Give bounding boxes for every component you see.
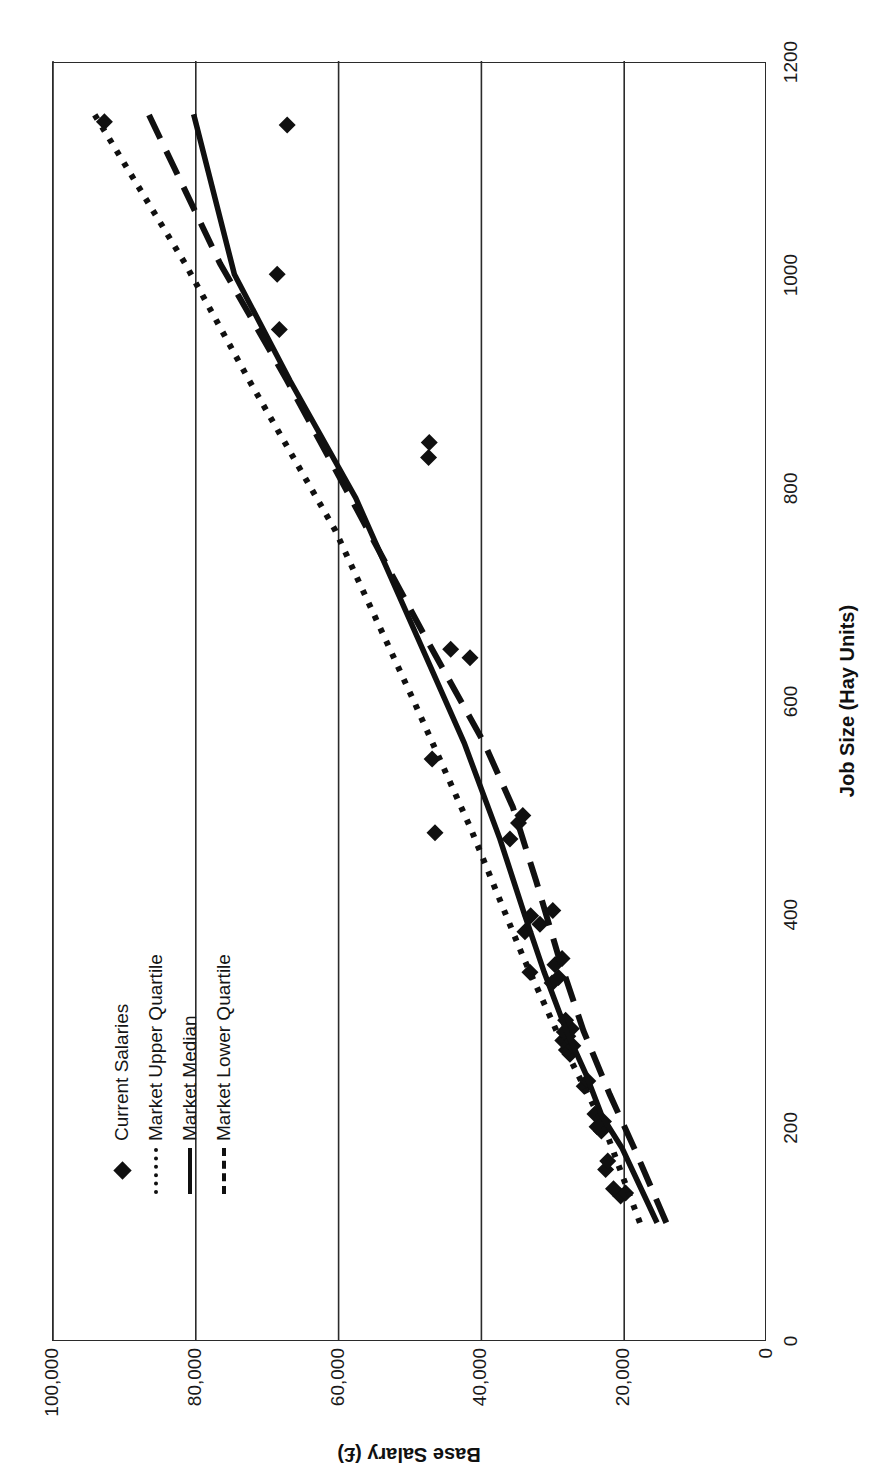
legend-label-current-salaries: Current Salaries bbox=[111, 1004, 133, 1145]
y-tick-0: 0 bbox=[755, 1348, 777, 1436]
x-tick-1000: 1000 bbox=[780, 254, 802, 296]
y-tick-60000: 60,000 bbox=[327, 1348, 349, 1436]
plot-area: Current Salaries Market Upper Quartile M… bbox=[52, 62, 766, 1341]
x-tick-200: 200 bbox=[780, 1112, 802, 1144]
x-tick-800: 800 bbox=[780, 472, 802, 504]
dotted-line-icon bbox=[144, 1145, 168, 1197]
diamond-marker-icon bbox=[110, 1145, 134, 1197]
x-tick-600: 600 bbox=[780, 686, 802, 718]
x-tick-1200: 1200 bbox=[780, 41, 802, 83]
x-tick-0: 0 bbox=[780, 1336, 802, 1347]
dashed-line-icon bbox=[212, 1145, 236, 1197]
legend-item-market-median: Market Median bbox=[173, 979, 207, 1197]
chart-figure: Current Salaries Market Upper Quartile M… bbox=[0, 0, 880, 1484]
x-axis-title: Job Size (Hay Units) bbox=[836, 605, 859, 797]
y-tick-100000: 100,000 bbox=[41, 1348, 63, 1436]
legend-item-market-upper-quartile: Market Upper Quartile bbox=[139, 979, 173, 1197]
legend-label-market-upper-quartile: Market Upper Quartile bbox=[145, 954, 167, 1145]
solid-line-icon bbox=[178, 1145, 202, 1197]
y-tick-80000: 80,000 bbox=[184, 1348, 206, 1436]
x-tick-400: 400 bbox=[780, 899, 802, 931]
y-tick-40000: 40,000 bbox=[469, 1348, 491, 1436]
legend-label-market-lower-quartile: Market Lower Quartile bbox=[213, 954, 235, 1145]
y-axis-title: Base Salary (£) bbox=[337, 1443, 480, 1466]
y-tick-20000: 20,000 bbox=[612, 1348, 634, 1436]
chart-legend: Current Salaries Market Upper Quartile M… bbox=[105, 979, 261, 1197]
legend-label-market-median: Market Median bbox=[179, 1015, 201, 1145]
legend-item-market-lower-quartile: Market Lower Quartile bbox=[207, 979, 241, 1197]
legend-item-current-salaries: Current Salaries bbox=[105, 979, 139, 1197]
